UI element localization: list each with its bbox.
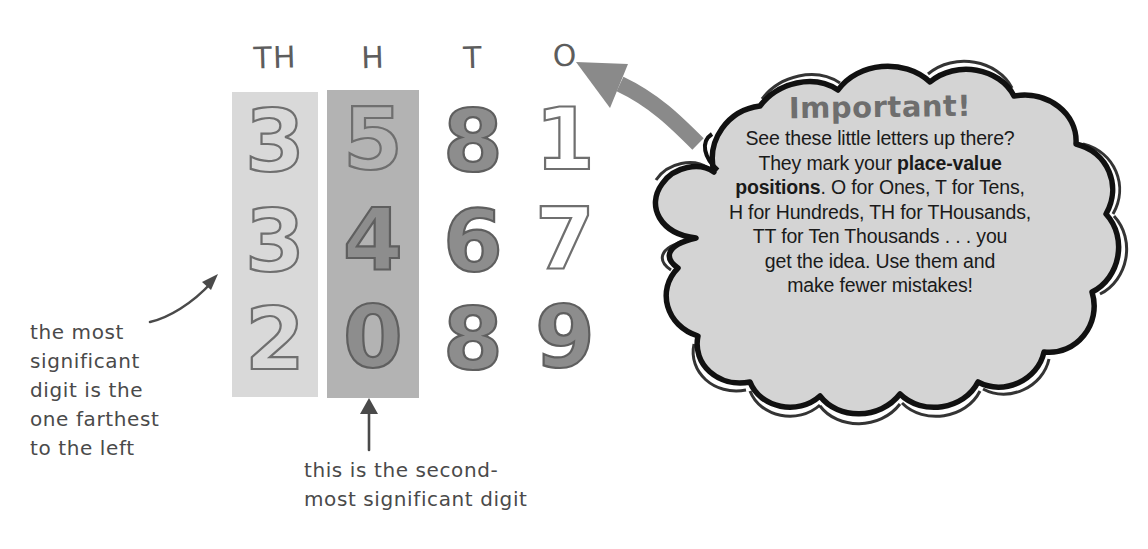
digit-cell: 8 <box>430 296 516 382</box>
callout-body-line: H for Hundreds, TH for THousands, <box>700 200 1060 225</box>
column-header-h: H <box>327 39 420 76</box>
place-value-figure: TH H T O 3 5 8 1 3 4 6 7 2 0 8 9 the mos… <box>0 0 1148 549</box>
digit-cell: 9 <box>522 294 608 380</box>
left-note-arrow-icon <box>140 248 250 328</box>
digit-cell: 0 <box>327 294 419 380</box>
callout-body-line: TT for Ten Thousands . . . you <box>700 224 1060 249</box>
callout-title: Important! <box>700 87 1060 126</box>
digit-cell: 5 <box>327 96 419 182</box>
callout-body-line: make fewer mistakes! <box>700 273 1060 298</box>
callout-text-block: Important! See these little letters up t… <box>700 90 1060 298</box>
callout-body: See these little letters up there?They m… <box>700 126 1060 298</box>
digit-cell: 8 <box>430 98 516 184</box>
callout-body-line: See these little letters up there? <box>700 126 1060 151</box>
annotation-second-most-significant-digit: this is the second- most significant dig… <box>304 456 644 514</box>
digit-cell: 3 <box>232 98 318 184</box>
callout-body-line: get the idea. Use them and <box>700 249 1060 274</box>
callout-body-line: They mark your place-value <box>700 151 1060 176</box>
callout-body-line: positions. O for Ones, T for Tens, <box>700 175 1060 200</box>
column-header-th: TH <box>232 39 319 76</box>
annotation-most-significant-digit: the most significant digit is the one fa… <box>30 318 240 463</box>
bottom-note-arrow-icon <box>355 396 383 452</box>
column-header-t: T <box>430 39 517 76</box>
important-callout: Important! See these little letters up t… <box>600 38 1148 438</box>
digit-cell: 6 <box>430 198 516 284</box>
digit-cell: 4 <box>327 196 419 282</box>
digit-cell: 7 <box>522 196 608 282</box>
